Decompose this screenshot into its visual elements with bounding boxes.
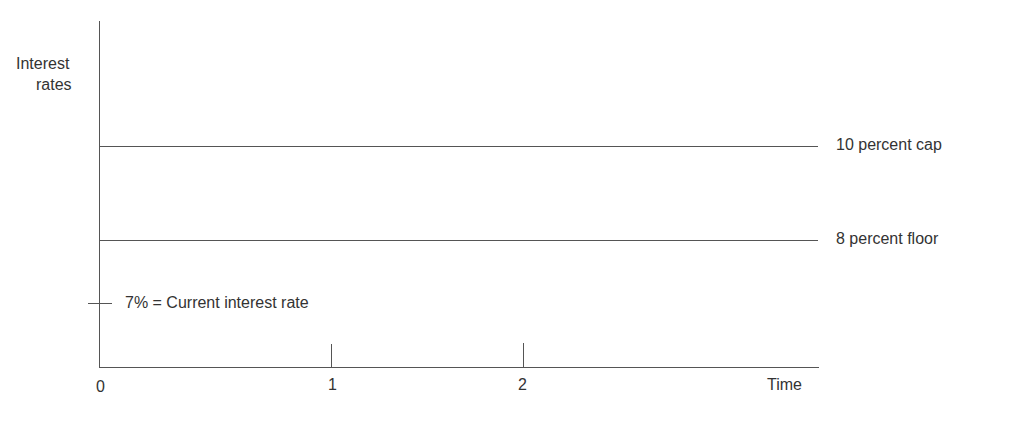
floor-line (99, 240, 818, 241)
current-rate-label: 7% = Current interest rate (125, 294, 309, 312)
floor-label: 8 percent floor (836, 230, 938, 248)
y-axis (99, 21, 100, 368)
x-tick-label-2: 2 (518, 376, 527, 394)
x-axis-label: Time (767, 376, 802, 394)
x-tick-1 (331, 344, 332, 368)
cap-line (99, 146, 818, 147)
y-axis-label-line1: Interest (16, 55, 69, 73)
x-axis (99, 367, 819, 368)
current-rate-tick (88, 303, 112, 304)
x-tick-2 (523, 343, 524, 368)
y-axis-label-line2: rates (36, 76, 72, 94)
cap-label: 10 percent cap (836, 136, 942, 154)
x-tick-label-1: 1 (328, 376, 337, 394)
x-tick-label-0: 0 (96, 378, 105, 396)
